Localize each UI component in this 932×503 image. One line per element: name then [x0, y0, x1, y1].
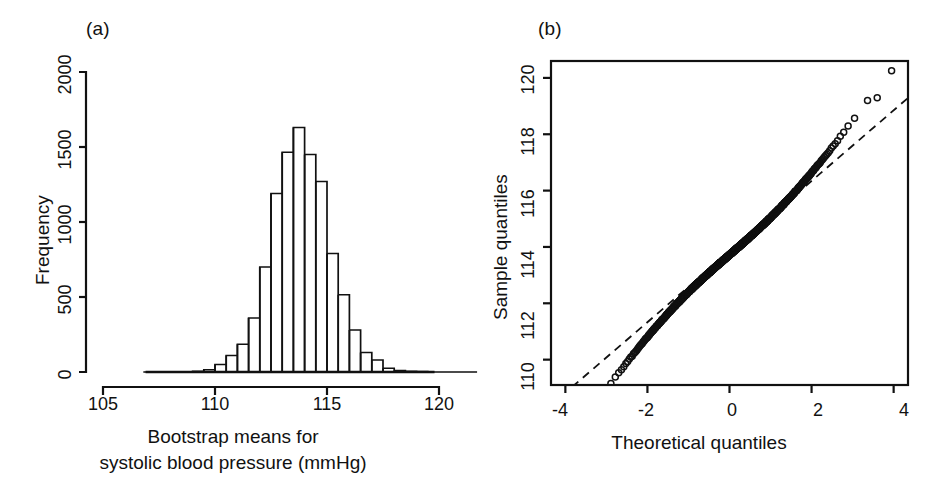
- panel-a-histogram: (a) Frequency 0 500 1000 1500 2000 105 1…: [0, 0, 466, 503]
- panel-b-data-point: [601, 389, 607, 395]
- panel-b-data-point: [852, 115, 858, 121]
- figure-container: (a) Frequency 0 500 1000 1500 2000 105 1…: [0, 0, 932, 503]
- panel-b-data-point: [889, 68, 895, 74]
- panel-b-data-point: [841, 129, 847, 135]
- panel-a-x-axis-line: [103, 387, 439, 395]
- panel-b-data-point: [588, 406, 594, 412]
- panel-b-points-group: [551, 68, 908, 412]
- panel-b-data-point: [845, 123, 851, 129]
- panel-b-plot-area: [466, 0, 932, 503]
- panel-a-plot-area: [0, 0, 466, 503]
- panel-b-data-point: [874, 95, 880, 101]
- panel-b-qq-plot: (b) Sample quantiles 110 112 114 116 118…: [466, 0, 932, 503]
- panel-a-histogram-outline: [143, 128, 477, 373]
- panel-b-frame: [551, 61, 908, 385]
- panel-b-data-point: [865, 97, 871, 103]
